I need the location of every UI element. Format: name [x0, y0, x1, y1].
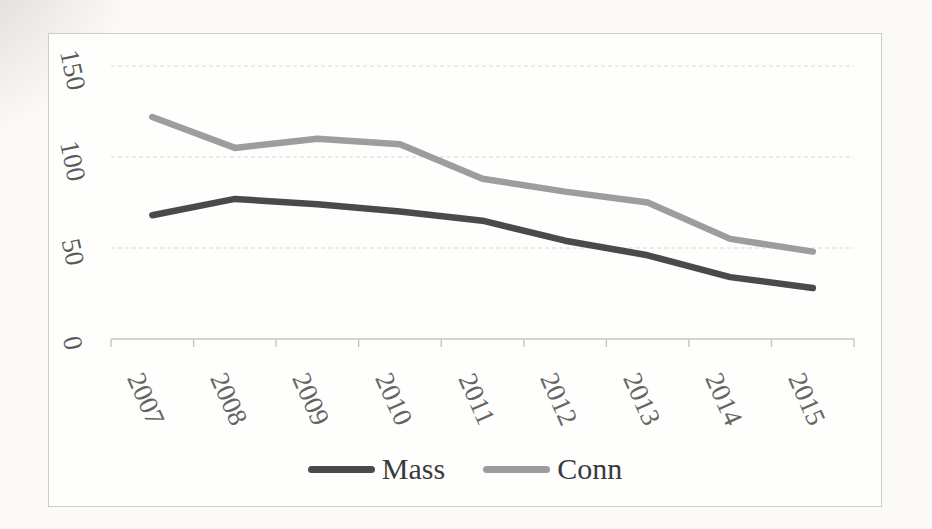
series-line-conn: [152, 117, 813, 252]
legend-swatch-conn: [483, 466, 550, 473]
legend-swatch-mass: [308, 466, 375, 473]
chart-plot-area: [49, 34, 883, 506]
legend-label-conn: Conn: [557, 453, 622, 485]
scanned-page: { "colors": { "page_background": "#fbfaf…: [0, 0, 932, 529]
legend-item-mass: Mass: [308, 453, 445, 485]
chart-legend: MassConn: [49, 453, 881, 485]
chart-frame: 050100150 200720082009201020112012201320…: [48, 33, 882, 507]
series-line-mass: [152, 199, 813, 288]
legend-item-conn: Conn: [483, 453, 622, 485]
legend-label-mass: Mass: [382, 453, 445, 485]
